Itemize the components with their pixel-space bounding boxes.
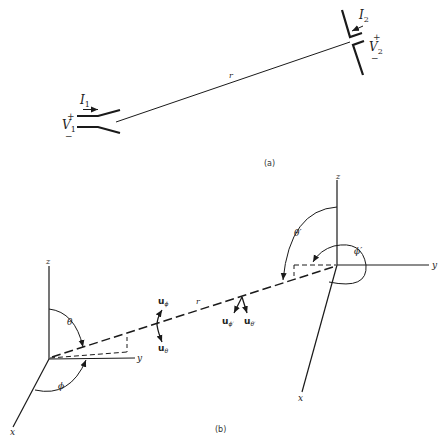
- left-y-axis: [49, 358, 135, 359]
- left-theta-label: θ: [67, 317, 73, 327]
- antenna-2-lower-arm: [353, 41, 364, 75]
- current-1-label: I1: [79, 93, 90, 109]
- antenna-1-lower-arm: [77, 127, 120, 133]
- left-frame: [13, 266, 135, 427]
- antenna-coupling-diagram: I1 + V1 − r I2 + V2 − (a): [0, 0, 446, 442]
- distance-line-b: [52, 266, 336, 357]
- left-x-label: x: [10, 427, 15, 437]
- u-phi-prime-label: uϕ′: [222, 316, 234, 328]
- u-theta-prime-arrow: [242, 297, 247, 313]
- left-unit-vectors: [157, 310, 162, 342]
- right-x-axis: [302, 265, 337, 392]
- u-phi-label: uϕ: [158, 296, 168, 308]
- u-theta-prime-label: uθ′: [244, 316, 256, 327]
- antenna-1: [77, 110, 120, 133]
- left-y-label: y: [136, 353, 143, 363]
- current-2-arrow: [352, 26, 363, 31]
- distance-line-a: [116, 42, 350, 122]
- current-2-label: I2: [358, 8, 369, 24]
- left-phi-label: ϕ: [58, 381, 64, 391]
- u-phi-prime-arrow: [234, 297, 242, 313]
- left-projection-line: [50, 352, 127, 358]
- part-a: I1 + V1 − r I2 + V2 − (a): [62, 8, 383, 168]
- u-theta-arrow: [157, 325, 162, 342]
- u-theta-label: uθ: [158, 343, 168, 354]
- right-theta-prime-label: θ′: [294, 228, 301, 238]
- distance-label-b: r: [196, 297, 201, 306]
- right-z-label: z: [335, 172, 341, 181]
- left-x-axis: [13, 359, 49, 427]
- right-phi-prime-label: ϕ′: [354, 246, 362, 256]
- right-y-label: y: [431, 260, 438, 270]
- left-theta-arc: [49, 309, 83, 347]
- distance-label-a: r: [229, 71, 234, 80]
- part-b: z y x θ ϕ r uϕ uθ uϕ′ uθ′: [10, 172, 438, 437]
- left-z-label: z: [45, 257, 51, 266]
- caption-a: (a): [264, 159, 275, 168]
- caption-b: (b): [215, 425, 226, 434]
- right-x-label: x: [298, 393, 303, 403]
- right-frame: [283, 180, 429, 392]
- voltage-2-minus: −: [371, 53, 379, 63]
- voltage-1-minus: −: [65, 131, 73, 141]
- right-unit-vectors: [234, 297, 247, 313]
- antenna-1-upper-arm: [77, 110, 120, 116]
